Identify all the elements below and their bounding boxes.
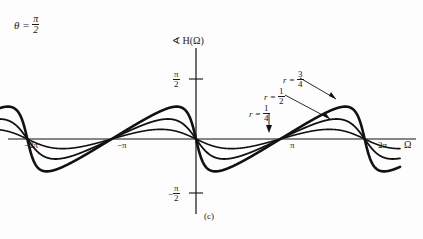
y-tick-pos-den: 2 <box>173 80 180 89</box>
arrow-head-r14 <box>266 125 272 133</box>
x-axis-title: Ω <box>404 140 411 150</box>
r12-prefix: r = <box>264 92 276 102</box>
r14-den: 4 <box>263 114 270 123</box>
theta-denominator: 2 <box>32 25 39 35</box>
x-tick-label-pi: π <box>290 141 295 150</box>
arrow-head-r34 <box>329 92 336 99</box>
r14-prefix: r = <box>249 109 261 119</box>
theta-symbol: θ <box>14 19 19 31</box>
y-tick-label-neg-pi-over-2: − π 2 <box>168 184 180 203</box>
r34-prefix: r = <box>283 75 295 85</box>
arrow-line-r12 <box>285 95 330 119</box>
axes <box>8 48 416 214</box>
curve-label-r-three-quarters: r = 3 4 <box>283 70 304 89</box>
x-tick-label-2pi: 2π <box>378 141 387 150</box>
x-tick-label-neg-2pi: −2π <box>24 141 38 150</box>
theta-condition-label: θ = π 2 <box>14 14 39 35</box>
y-axis-title: ∢ H(Ω) <box>172 36 204 46</box>
r34-den: 4 <box>297 80 304 89</box>
theta-equals: = <box>22 19 29 31</box>
curve-label-r-one-quarter: r = 1 4 <box>249 104 270 123</box>
y-tick-label-pi-over-2: π 2 <box>173 70 180 89</box>
figure-panel: θ = π 2 ∢ H(Ω) π 2 − π 2 −2π −π π 2π Ω r… <box>0 0 423 239</box>
phase-response-plot <box>0 0 423 239</box>
y-tick-neg-den: 2 <box>173 194 180 203</box>
angle-icon: ∢ <box>172 35 180 46</box>
figure-caption: (c) <box>204 212 214 221</box>
y-axis-title-text: H(Ω) <box>183 35 204 46</box>
x-tick-label-neg-pi: −π <box>117 141 127 150</box>
r12-den: 2 <box>278 97 285 106</box>
